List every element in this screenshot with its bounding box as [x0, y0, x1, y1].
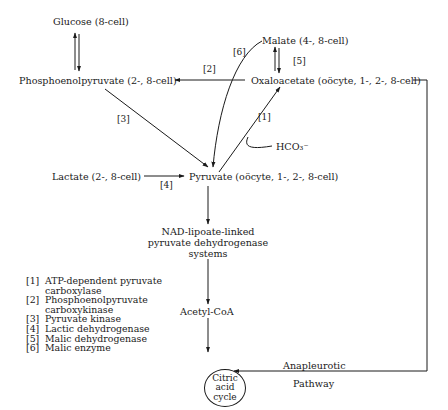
node-glucose: Glucose (8-cell)	[53, 16, 129, 27]
pdh-line-3: systems	[140, 248, 276, 259]
node-malate: Malate (4-, 8-cell)	[262, 35, 348, 46]
node-lactate: Lactate (2-, 8-cell)	[52, 171, 141, 182]
tca-line-3: cycle	[213, 393, 236, 403]
arrow-pyruvate-to-oaa	[219, 87, 280, 172]
node-pyruvate: Pyruvate (oöcyte, 1-, 2-, 8-cell)	[189, 171, 338, 182]
bicarbonate-input-curve	[247, 137, 272, 148]
arrow-pep-to-pyruvate	[105, 89, 208, 167]
edge-label-6: [6]	[233, 47, 246, 57]
edge-label-3: [3]	[117, 114, 130, 124]
pdh-line-2: pyruvate dehydrogenase	[140, 237, 276, 248]
node-acetyl-coa: Acetyl-CoA	[180, 306, 234, 317]
enzyme-legend: [1]ATP-dependent pyruvatecarboxylase [2]…	[26, 276, 162, 353]
anaplerotic-label: Anapleurotic	[283, 360, 346, 371]
edge-label-5: [5]	[293, 56, 306, 66]
node-citric-acid-cycle: Citric acid cycle	[204, 369, 246, 407]
legend-item: [2]Phosphoenolpyruvatecarboxykinase	[26, 295, 162, 314]
edge-label-4: [4]	[160, 180, 173, 190]
node-oxaloacetate: Oxaloacetate (oöcyte, 1-, 2-, 8-cell)	[251, 75, 421, 86]
arrow-malate-to-pyruvate	[213, 41, 262, 167]
legend-item: [6]Malic enzyme	[26, 343, 162, 353]
edge-label-2: [2]	[203, 64, 216, 74]
node-pdh: NAD-lipoate-linked pyruvate dehydrogenas…	[140, 226, 276, 259]
node-phosphoenolpyruvate: Phosphoenolpyruvate (2-, 8-cell)	[19, 75, 177, 86]
pdh-line-1: NAD-lipoate-linked	[140, 226, 276, 237]
edge-label-1: [1]	[258, 112, 271, 122]
pathway-label: Pathway	[293, 378, 334, 389]
node-bicarbonate: HCO₃⁻	[276, 141, 308, 152]
legend-item: [1]ATP-dependent pyruvatecarboxylase	[26, 276, 162, 295]
